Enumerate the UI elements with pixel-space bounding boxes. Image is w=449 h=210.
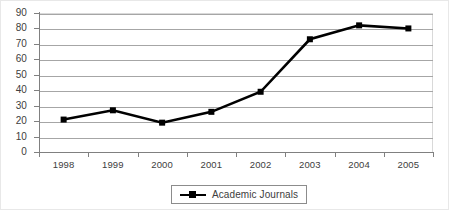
x-axis-tick-label: 2000 (140, 159, 184, 170)
x-axis-tick (187, 152, 188, 157)
gridline (39, 138, 433, 139)
y-axis-tick (34, 106, 39, 107)
x-axis-tick (138, 152, 139, 157)
y-axis-tick-label: 30 (3, 101, 27, 111)
y-axis-tick (34, 28, 39, 29)
y-axis-line (39, 12, 40, 153)
y-axis-tick-label: 90 (3, 8, 27, 18)
gridline (39, 91, 433, 92)
y-axis-tick-label: 0 (3, 147, 27, 157)
y-axis-tick-label: 50 (3, 70, 27, 80)
gridline (39, 76, 433, 77)
line-chart: 0102030405060708090 19981999200020012002… (0, 0, 449, 210)
gridline (39, 29, 433, 30)
gridline (39, 45, 433, 46)
y-axis-tick-label: 10 (3, 132, 27, 142)
y-axis-tick (34, 59, 39, 60)
x-axis-tick-label: 1998 (42, 159, 86, 170)
y-axis-tick-label: 20 (3, 116, 27, 126)
legend-item-label: Academic Journals (212, 189, 298, 200)
y-axis-tick (34, 137, 39, 138)
x-axis-tick-label: 2003 (288, 159, 332, 170)
x-axis-tick-label: 2002 (239, 159, 283, 170)
x-axis-tick (384, 152, 385, 157)
y-axis-tick (34, 75, 39, 76)
gridline (39, 14, 433, 15)
x-axis-tick-label: 1999 (91, 159, 135, 170)
x-axis-tick-label: 2004 (337, 159, 381, 170)
y-axis-tick (34, 44, 39, 45)
x-axis-tick-label: 2005 (386, 159, 430, 170)
gridline (39, 60, 433, 61)
gridline (39, 122, 433, 123)
x-axis-tick (433, 152, 434, 157)
x-axis-tick (39, 152, 40, 157)
y-axis-tick (34, 13, 39, 14)
y-axis-tick (34, 121, 39, 122)
x-axis-tick (236, 152, 237, 157)
x-axis-tick (285, 152, 286, 157)
x-axis-tick (88, 152, 89, 157)
y-axis-tick-label: 60 (3, 54, 27, 64)
legend: Academic Journals (171, 185, 307, 204)
y-axis-tick-label: 80 (3, 23, 27, 33)
gridline (39, 107, 433, 108)
x-axis-tick-label: 2001 (189, 159, 233, 170)
x-axis-tick (335, 152, 336, 157)
y-axis-tick-label: 70 (3, 39, 27, 49)
y-axis-tick (34, 90, 39, 91)
y-axis-tick-label: 40 (3, 85, 27, 95)
line-square-marker-icon (180, 190, 206, 200)
plot-area (39, 13, 433, 152)
